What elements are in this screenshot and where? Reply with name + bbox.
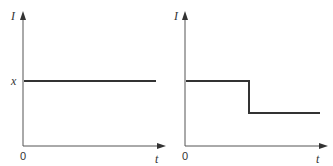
right-y-axis-label: I [173, 9, 179, 23]
left-y-axis-label: I [10, 9, 16, 23]
right-plot: I 0 t [173, 9, 328, 166]
right-y-axis-arrow-icon [182, 11, 188, 20]
right-step-line [186, 81, 320, 113]
diagram-canvas: I x 0 t I 0 t [0, 0, 333, 166]
right-origin-label: 0 [182, 150, 188, 162]
left-level-label: x [10, 74, 17, 88]
left-plot: I x 0 t [10, 9, 166, 166]
left-origin-label: 0 [20, 150, 26, 162]
right-x-axis-label: t [316, 152, 320, 166]
right-x-axis-arrow-icon [319, 143, 328, 149]
left-x-axis-arrow-icon [157, 143, 166, 149]
left-x-axis-label: t [155, 152, 159, 166]
left-y-axis-arrow-icon [20, 11, 26, 20]
